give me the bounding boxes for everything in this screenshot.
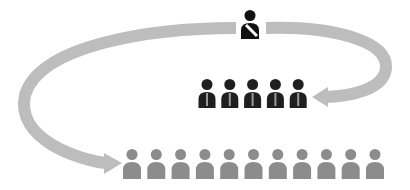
staff-figure [196,149,214,179]
manager-figure [199,79,216,108]
manager-figure [290,79,307,108]
manager-figure [221,79,238,108]
staff-figure [172,149,190,179]
staff-figure [293,149,311,179]
arrowhead-icon [104,153,122,174]
managers-row [199,79,307,108]
manager-figure [244,79,261,108]
person-with-sash-icon [241,10,259,39]
staff-figure [366,149,384,179]
hierarchy-diagram [0,0,410,190]
staff-figure [220,149,238,179]
manager-figure [267,79,284,108]
leader-figure [241,10,259,39]
staff-figure [269,149,287,179]
arrowhead-icon [312,87,328,107]
staff-figure [123,149,141,179]
staff-figure [147,149,165,179]
staff-figure [342,149,360,179]
staff-figure [245,149,263,179]
staff-figure [317,149,335,179]
staff-row [123,149,384,179]
arrow-leader-to-managers [266,28,386,107]
